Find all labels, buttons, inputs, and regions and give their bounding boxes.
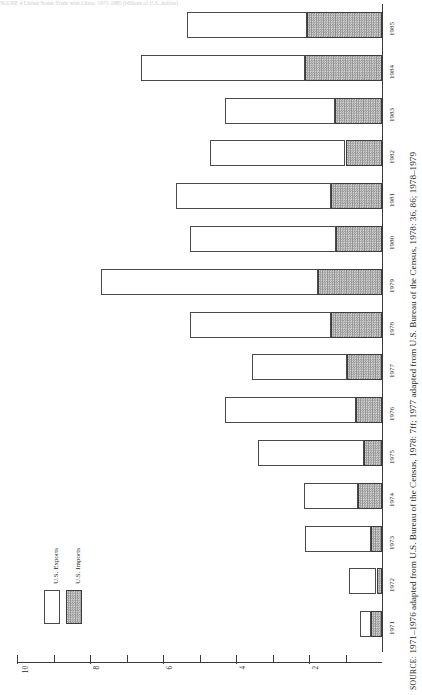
legend: U.S. Exports U.S. Imports bbox=[44, 590, 164, 652]
bar-segment-imports bbox=[318, 269, 382, 295]
bar-segment-imports bbox=[346, 140, 383, 166]
source-prefix: SOURCE: bbox=[409, 656, 418, 690]
bar-segment-imports bbox=[364, 440, 382, 466]
figure-container: FIGURE 4 United States Trade with China,… bbox=[0, 0, 422, 695]
bar-row bbox=[0, 226, 422, 252]
axis-tick-major bbox=[236, 655, 237, 664]
category-label-year: 1980 bbox=[388, 236, 396, 250]
bar-row bbox=[0, 526, 422, 552]
bar-segment-imports bbox=[356, 397, 382, 423]
axis-tick-label: 8 bbox=[93, 666, 101, 670]
category-label-year: 1978 bbox=[388, 322, 396, 336]
bar-row bbox=[0, 269, 422, 295]
axis-tick-minor bbox=[346, 655, 347, 663]
category-label-year: 1976 bbox=[388, 407, 396, 421]
axis-tick-minor bbox=[127, 655, 128, 663]
bar-segment-exports bbox=[225, 397, 356, 423]
bar-segment-exports bbox=[349, 568, 376, 594]
axis-tick-major bbox=[309, 655, 310, 664]
bar-segment-exports bbox=[210, 140, 345, 166]
axis-tick-major bbox=[163, 655, 164, 664]
bar-segment-imports bbox=[377, 568, 383, 594]
bar-segment-exports bbox=[141, 55, 305, 81]
axis-tick-minor bbox=[273, 655, 274, 663]
legend-swatch-imports-icon bbox=[66, 590, 82, 624]
category-label-year: 1984 bbox=[388, 65, 396, 79]
bar-row bbox=[0, 483, 422, 509]
axis-tick-major bbox=[90, 655, 91, 664]
source-text: 1971–1976 adapted from U.S. Bureau of th… bbox=[408, 152, 418, 654]
bar-segment-exports bbox=[101, 269, 318, 295]
axis-tick-label: 6 bbox=[166, 666, 174, 670]
category-label-year: 1983 bbox=[388, 108, 396, 122]
axis-tick-major bbox=[17, 655, 18, 664]
category-label-year: 1985 bbox=[388, 22, 396, 36]
source-note: SOURCE: 1971–1976 adapted from U.S. Bure… bbox=[408, 152, 418, 690]
bar-segment-imports bbox=[371, 526, 382, 552]
axis-tick-label: 2 bbox=[312, 666, 320, 670]
category-label-year: 1971 bbox=[388, 621, 396, 635]
category-label-year: 1981 bbox=[388, 193, 396, 207]
category-label-year: 1979 bbox=[388, 279, 396, 293]
bar-segment-imports bbox=[335, 98, 382, 124]
bar-segment-exports bbox=[187, 12, 307, 38]
legend-item-exports: U.S. Exports bbox=[44, 590, 60, 624]
axis-tick-minor bbox=[200, 655, 201, 663]
bar-segment-imports bbox=[347, 354, 382, 380]
category-label-year: 1975 bbox=[388, 450, 396, 464]
category-label-year: 1973 bbox=[388, 536, 396, 550]
bar-row bbox=[0, 12, 422, 38]
bar-row bbox=[0, 183, 422, 209]
axis-tick-label: 10 bbox=[22, 666, 30, 673]
bar-segment-exports bbox=[190, 312, 331, 338]
bar-segment-exports bbox=[304, 483, 359, 509]
bar-segment-imports bbox=[307, 12, 382, 38]
bar-segment-exports bbox=[258, 440, 364, 466]
category-label-year: 1974 bbox=[388, 493, 396, 507]
bar-segment-exports bbox=[252, 354, 347, 380]
legend-item-imports: U.S. Imports bbox=[66, 590, 82, 624]
axis-tick-label: 4 bbox=[239, 666, 247, 670]
bar-row bbox=[0, 354, 422, 380]
bar-segment-imports bbox=[358, 483, 382, 509]
bar-segment-exports bbox=[190, 226, 336, 252]
bar-segment-imports bbox=[331, 183, 382, 209]
legend-label-imports: U.S. Imports bbox=[74, 548, 82, 584]
bar-row bbox=[0, 312, 422, 338]
legend-swatch-exports-icon bbox=[44, 590, 60, 624]
bar-segment-exports bbox=[176, 183, 331, 209]
bar-segment-imports bbox=[305, 55, 382, 81]
bar-row bbox=[0, 140, 422, 166]
bar-segment-imports bbox=[371, 611, 382, 637]
bar-row bbox=[0, 98, 422, 124]
bar-segment-imports bbox=[331, 312, 382, 338]
bar-segment-exports bbox=[305, 526, 371, 552]
category-label-year: 1972 bbox=[388, 578, 396, 592]
bar-segment-exports bbox=[225, 98, 335, 124]
bar-row bbox=[0, 55, 422, 81]
category-label-year: 1982 bbox=[388, 150, 396, 164]
category-label-year: 1977 bbox=[388, 364, 396, 378]
bar-row bbox=[0, 397, 422, 423]
bar-row bbox=[0, 440, 422, 466]
bar-segment-exports bbox=[360, 611, 371, 637]
axis-tick-minor bbox=[54, 655, 55, 663]
bar-segment-imports bbox=[336, 226, 382, 252]
legend-label-exports: U.S. Exports bbox=[52, 548, 60, 584]
